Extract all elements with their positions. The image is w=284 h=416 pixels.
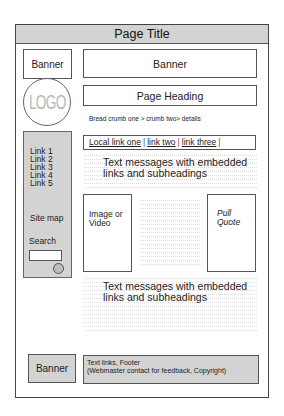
site-map-link[interactable]: Site map (30, 213, 64, 223)
breadcrumb[interactable]: Bread crumb one > crumb two> details (89, 115, 201, 122)
local-link-one[interactable]: Local link one (89, 137, 141, 147)
footer-contact[interactable]: (Webmaster contact for feedback, Copyrig… (87, 367, 258, 375)
logo[interactable]: LOGO (23, 78, 71, 126)
local-links-bar: Local link one|link two|link three| (83, 135, 256, 150)
footer: Text links, Footer (Webmaster contact fo… (83, 355, 259, 384)
logo-icon: LOGO (29, 90, 66, 114)
local-link-three[interactable]: link three (182, 137, 217, 147)
sidebar-nav: Link 1 Link 2 Link 3 Link 4 Link 5 Site … (23, 131, 72, 278)
sidebar-links: Link 1 Link 2 Link 3 Link 4 Link 5 (30, 147, 53, 187)
text-block-1: Text messages with embedded links and su… (103, 157, 263, 178)
top-banner: Banner (83, 49, 257, 78)
footer-banner: Banner (28, 354, 76, 383)
footer-text-links[interactable]: Text links, Footer (87, 359, 258, 367)
link-separator: | (178, 137, 180, 147)
pull-quote: Pull Quote (207, 194, 256, 272)
top-banner-label: Banner (153, 58, 187, 70)
link-separator: | (218, 137, 220, 147)
local-link-two[interactable]: link two (147, 137, 175, 147)
left-banner-label: Banner (31, 59, 63, 70)
text-block-1-label: Text messages with embedded links and su… (103, 157, 263, 178)
sidebar-link-5[interactable]: Link 5 (30, 179, 53, 187)
text-filler-middle (140, 198, 202, 268)
image-video-label: Image or Video (89, 210, 125, 228)
text-block-2: Text messages with embedded links and su… (103, 281, 263, 302)
footer-banner-label: Banner (36, 363, 68, 374)
search-label: Search (29, 236, 56, 246)
search-button[interactable] (53, 263, 64, 274)
page-heading: Page Heading (83, 85, 257, 106)
link-separator: | (143, 137, 145, 147)
search-input[interactable] (29, 250, 62, 261)
left-banner: Banner (23, 49, 72, 79)
text-block-2-label: Text messages with embedded links and su… (103, 281, 263, 302)
page-frame: Page Title Banner Banner LOGO Page Headi… (15, 24, 269, 398)
page-title: Page Title (16, 25, 268, 44)
pull-quote-label: Pull Quote (217, 209, 247, 227)
image-video-placeholder: Image or Video (83, 194, 132, 272)
page-heading-label: Page Heading (137, 90, 204, 102)
